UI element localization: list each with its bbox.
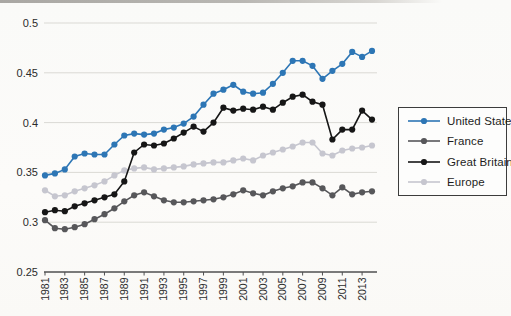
data-point-united-states-2011 (339, 61, 345, 67)
data-point-great-britain-2003 (260, 104, 266, 110)
x-tick-label: 1997 (197, 277, 209, 301)
data-point-france-2003 (260, 192, 266, 198)
data-point-france-1998 (210, 196, 216, 202)
data-point-united-states-1984 (72, 153, 78, 159)
data-point-united-states-2010 (329, 68, 335, 74)
data-point-great-britain-2011 (339, 127, 345, 133)
data-point-great-britain-2001 (240, 106, 246, 112)
legend-line-marker-icon (408, 157, 440, 167)
data-point-france-2004 (270, 188, 276, 194)
x-tick-label: 1983 (58, 277, 70, 301)
data-point-united-states-2003 (260, 90, 266, 96)
data-point-united-states-2001 (240, 89, 246, 95)
data-point-europe-1997 (200, 160, 206, 166)
data-point-great-britain-2009 (319, 102, 325, 108)
data-point-france-1992 (151, 193, 157, 199)
data-point-france-2007 (300, 179, 306, 185)
data-point-united-states-2006 (290, 58, 296, 64)
x-tick-label: 2003 (257, 277, 269, 301)
data-point-united-states-1992 (151, 131, 157, 137)
data-point-united-states-2014 (369, 48, 375, 54)
y-tick-label: 0.4 (23, 117, 38, 129)
legend-line-marker-icon (408, 177, 440, 187)
data-point-united-states-1981 (42, 172, 48, 178)
x-tick-label: 2007 (296, 277, 308, 301)
data-point-france-2002 (250, 190, 256, 196)
data-point-france-1986 (91, 216, 97, 222)
y-tick-label: 0.5 (23, 17, 38, 29)
data-point-france-1991 (141, 189, 147, 195)
data-point-united-states-1982 (52, 170, 58, 176)
data-point-europe-1995 (181, 163, 187, 169)
data-point-europe-2014 (369, 142, 375, 148)
y-tick-label: 0.25 (17, 266, 38, 278)
legend-label: United States (447, 115, 511, 127)
data-point-united-states-2008 (309, 63, 315, 69)
data-point-france-2006 (290, 183, 296, 189)
data-point-france-1987 (101, 211, 107, 217)
data-point-great-britain-2012 (349, 127, 355, 133)
data-point-france-2009 (319, 185, 325, 191)
data-point-great-britain-1986 (91, 197, 97, 203)
data-point-europe-2008 (309, 139, 315, 145)
legend-label: France (447, 135, 483, 147)
data-point-great-britain-2004 (270, 107, 276, 113)
x-tick-label: 1993 (157, 277, 169, 301)
data-point-europe-2010 (329, 152, 335, 158)
data-point-united-states-2007 (300, 58, 306, 64)
data-point-great-britain-1981 (42, 209, 48, 215)
legend-line-marker-icon (408, 116, 440, 126)
data-point-france-2008 (309, 179, 315, 185)
data-point-great-britain-2002 (250, 107, 256, 113)
data-point-united-states-2013 (359, 54, 365, 60)
x-tick-label: 1999 (217, 277, 229, 301)
data-point-great-britain-1998 (210, 120, 216, 126)
data-point-great-britain-1987 (101, 194, 107, 200)
data-point-france-1982 (52, 225, 58, 231)
x-tick-label: 1995 (177, 277, 189, 301)
data-point-europe-1983 (62, 192, 68, 198)
data-point-europe-1987 (101, 178, 107, 184)
y-tick-label: 0.3 (23, 216, 38, 228)
data-point-europe-2003 (260, 152, 266, 158)
data-point-great-britain-1995 (181, 130, 187, 136)
x-tick-label: 2009 (316, 277, 328, 301)
legend-label: Great Britain (447, 156, 511, 168)
data-point-great-britain-1993 (161, 140, 167, 146)
data-point-great-britain-2008 (309, 99, 315, 105)
data-point-europe-1989 (121, 167, 127, 173)
x-tick-label: 1989 (118, 277, 130, 301)
data-point-europe-2005 (280, 146, 286, 152)
data-point-great-britain-1992 (151, 142, 157, 148)
data-point-france-1985 (82, 221, 88, 227)
data-point-france-1990 (131, 192, 137, 198)
data-point-united-states-1998 (210, 91, 216, 97)
data-point-europe-1990 (131, 165, 137, 171)
data-point-france-1993 (161, 197, 167, 203)
x-tick-label: 2011 (336, 277, 348, 300)
data-point-france-1988 (111, 205, 117, 211)
data-point-europe-1994 (171, 164, 177, 170)
data-point-great-britain-2010 (329, 136, 335, 142)
legend-item-united-states: United States (408, 112, 506, 130)
legend-item-europe: Europe (408, 173, 506, 191)
data-point-united-states-1991 (141, 132, 147, 138)
data-point-united-states-2009 (319, 76, 325, 82)
data-point-france-2001 (240, 187, 246, 193)
data-point-france-2012 (349, 191, 355, 197)
data-point-france-1996 (191, 198, 197, 204)
data-point-europe-1982 (52, 193, 58, 199)
data-point-france-2010 (329, 192, 335, 198)
data-point-europe-1999 (220, 159, 226, 165)
data-point-europe-2012 (349, 145, 355, 151)
data-point-europe-1984 (72, 188, 78, 194)
data-point-great-britain-1988 (111, 191, 117, 197)
data-point-great-britain-1990 (131, 149, 137, 155)
data-point-great-britain-2000 (230, 108, 236, 114)
data-point-europe-1988 (111, 172, 117, 178)
data-point-united-states-1999 (220, 87, 226, 93)
data-point-europe-2007 (300, 139, 306, 145)
data-point-europe-1993 (161, 165, 167, 171)
data-point-europe-2013 (359, 144, 365, 150)
data-point-europe-2000 (230, 157, 236, 163)
